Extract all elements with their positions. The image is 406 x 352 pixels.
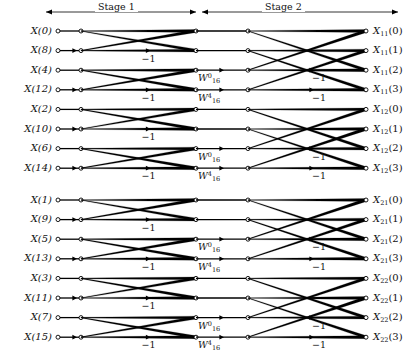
stage-2-through-edge — [248, 277, 366, 280]
input-label-symbol: X(5) — [31, 233, 52, 244]
stage-1-through-edge — [81, 316, 196, 319]
stage-2-minus-one-label: −1 — [312, 242, 326, 252]
stage-2-through-edge — [248, 336, 366, 339]
input-terminal-node — [56, 88, 60, 92]
output-label-21-2: X21(2) — [373, 234, 403, 245]
output-label-21-1: X21(1) — [373, 214, 403, 225]
output-terminal-node — [364, 296, 368, 300]
input-terminal-node — [56, 166, 60, 170]
output-terminal-node — [364, 257, 368, 261]
twiddle-factor-label-w0: W016 — [198, 152, 220, 163]
output-label-11-0: X11(0) — [373, 26, 403, 37]
stage-2-through-edge — [248, 199, 366, 202]
stage-2-through-edge — [248, 30, 366, 33]
twiddle-modulus: 16 — [212, 344, 220, 352]
output-terminal-node — [364, 88, 368, 92]
stage-1-minus-one-label: −1 — [142, 301, 156, 311]
output-label-21-3: X21(3) — [373, 253, 403, 264]
input-label-13: X(13) — [2, 253, 52, 263]
output-label-22-1: X22(1) — [373, 293, 403, 304]
output-label-11-2: X11(2) — [373, 65, 403, 76]
input-label-symbol: X(1) — [31, 194, 52, 205]
stage-2-minus-one-label: −1 — [312, 152, 326, 162]
output-label-index: (1) — [388, 213, 402, 224]
output-label-11-3: X11(3) — [373, 84, 403, 95]
output-label-index: (0) — [388, 194, 402, 205]
output-label-index: (2) — [388, 64, 402, 75]
output-label-index: (3) — [388, 162, 402, 173]
twiddle-base-symbol: W — [198, 72, 208, 83]
input-label-symbol: X(9) — [31, 213, 52, 224]
output-label-index: (0) — [388, 272, 402, 283]
output-terminal-node — [364, 127, 368, 131]
input-lead-arrow-icon — [72, 166, 77, 171]
twiddle-base-symbol: W — [198, 92, 208, 103]
input-label-symbol: X(12) — [24, 83, 52, 94]
output-label-index: (2) — [388, 142, 402, 153]
input-label-symbol: X(6) — [31, 142, 52, 153]
twiddle-factor-label-w0: W016 — [198, 321, 220, 332]
stage-2-through-edge — [248, 88, 366, 91]
output-terminal-node — [364, 166, 368, 170]
input-label-symbol: X(2) — [31, 103, 52, 114]
stage-2-minus-one-label: −1 — [312, 340, 326, 350]
stage-1-through-edge — [81, 257, 196, 260]
stage-1-through-edge — [81, 88, 196, 91]
stage-1-through-edge — [81, 49, 196, 52]
input-terminal-node — [56, 198, 60, 202]
twiddle-modulus: 16 — [212, 175, 220, 183]
output-label-11-1: X11(1) — [373, 45, 403, 56]
output-label-12-3: X12(3) — [373, 163, 403, 174]
stage-1-through-edge — [81, 218, 196, 221]
output-terminal-node — [364, 237, 368, 241]
output-label-index: (0) — [388, 103, 402, 114]
output-terminal-node — [364, 107, 368, 111]
twiddle-modulus: 16 — [212, 265, 220, 273]
stage-2-through-edge — [248, 108, 366, 111]
twiddle-base-symbol: W — [198, 170, 208, 181]
twiddle-modulus: 16 — [212, 96, 220, 104]
twiddle-modulus: 16 — [212, 324, 220, 332]
output-terminal-node — [364, 29, 368, 33]
stage-1-through-edge — [81, 167, 196, 170]
output-label-index: (3) — [388, 331, 402, 342]
input-terminal-node — [56, 276, 60, 280]
stage-1-through-edge — [81, 277, 196, 280]
input-label-symbol: X(11) — [24, 292, 52, 303]
twiddle-factor-label-w0: W016 — [198, 73, 220, 84]
output-terminal-node — [364, 147, 368, 151]
stage-1-minus-one-label: −1 — [142, 171, 156, 181]
input-label-8: X(8) — [2, 45, 52, 55]
twiddle-arrow-icon — [219, 68, 224, 73]
input-terminal-node — [56, 218, 60, 222]
stage-1-through-edge — [81, 108, 196, 111]
stage-1-through-edge — [81, 199, 196, 202]
input-label-symbol: X(13) — [24, 252, 52, 263]
stage-2-span-left-arrow-icon — [202, 9, 208, 14]
stage-2-through-edge — [248, 167, 366, 170]
stage-1-through-edge — [81, 336, 196, 339]
input-lead-arrow-icon — [72, 296, 77, 301]
input-label-7: X(7) — [2, 312, 52, 322]
stage-1-minus-one-label: −1 — [142, 340, 156, 350]
input-terminal-node — [56, 335, 60, 339]
output-label-index: (1) — [388, 123, 402, 134]
input-label-symbol: X(7) — [31, 311, 52, 322]
input-terminal-node — [56, 127, 60, 131]
input-label-symbol: X(14) — [24, 162, 52, 173]
output-label-index: (3) — [388, 83, 402, 94]
output-terminal-node — [364, 49, 368, 53]
twiddle-arrow-icon — [219, 237, 224, 242]
input-label-0: X(0) — [2, 26, 52, 36]
twiddle-factor-label-w4: W416 — [198, 340, 220, 351]
twiddle-base-symbol: W — [198, 339, 208, 350]
input-label-symbol: X(4) — [31, 64, 52, 75]
output-label-12-2: X12(2) — [373, 143, 403, 154]
input-terminal-node — [56, 257, 60, 261]
input-lead-arrow-icon — [72, 256, 77, 261]
stage-1-header-label: Stage 1 — [95, 2, 138, 12]
twiddle-base-symbol: W — [198, 261, 208, 272]
twiddle-base-symbol: W — [198, 151, 208, 162]
twiddle-arrow-icon — [219, 315, 224, 320]
